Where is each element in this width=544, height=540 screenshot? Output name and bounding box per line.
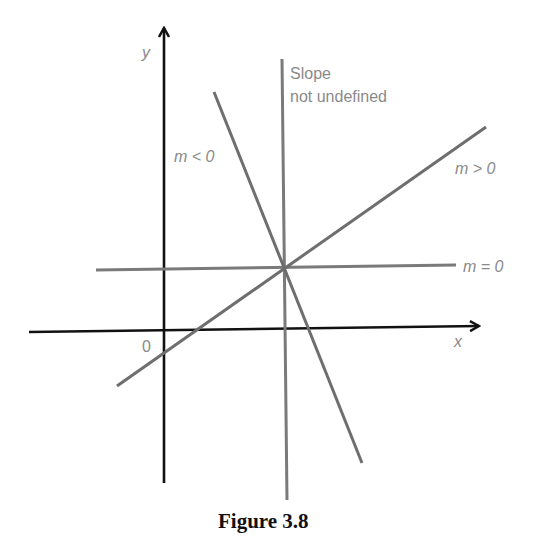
negative-slope-label: m < 0 [174,148,215,165]
zero-slope-label: m = 0 [463,258,504,275]
x-axis-label: x [453,333,463,350]
vertical-line [282,59,287,500]
negative-slope-line [214,92,362,463]
positive-slope-line [117,127,486,386]
horizontal-line [96,265,456,270]
figure-caption: Figure 3.8 [218,509,309,533]
y-axis-label: y [141,44,151,61]
positive-slope-label: m > 0 [455,160,496,177]
vertical-line-label-1: Slope [290,65,331,82]
vertical-line-label-2: not undefined [290,88,387,105]
slope-diagram: y x 0 Slope not undefined m < 0 m > 0 m … [0,0,544,540]
origin-label: 0 [142,338,151,355]
x-axis [29,326,479,332]
